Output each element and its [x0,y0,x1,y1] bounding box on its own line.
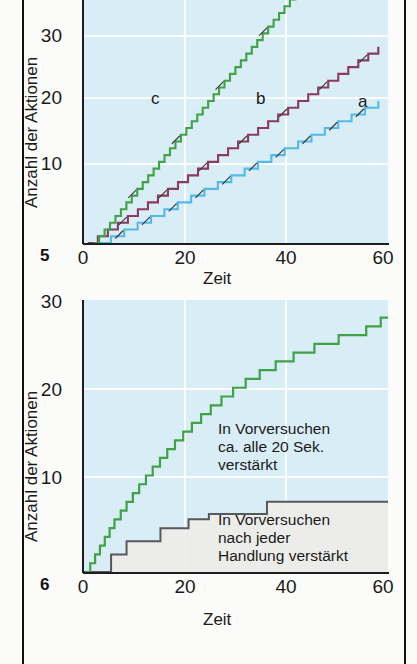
figure-6-ytick-30: 30 [22,292,62,311]
figure-6: 30 20 10 0 20 40 60 Zeit Anzahl der Akti… [0,280,417,664]
figure-5-xtick-20: 20 [165,248,205,267]
figure-5-curve-label-a: a [358,92,367,112]
figure-5-y-axis [82,0,84,244]
figure-6-xtick-40: 40 [266,577,306,596]
figure-6-y-axis [82,300,84,573]
figure-5-curve-label-c: c [151,89,160,109]
figure-5-xtick-40: 40 [266,248,306,267]
figure-5-curve-label-b: b [256,89,265,109]
figure-5-xtick-60: 60 [363,248,403,267]
figure-6-note-continuous: In Vorversuchen nach jeder Handlung vers… [218,511,348,565]
figure-5: 30 20 10 0 20 40 60 Zeit Anzahl der Akti… [0,0,417,280]
figure-5-ytick-30: 30 [22,26,62,45]
figure-6-xtick-20: 20 [165,577,205,596]
figure-6-xtick-0: 0 [63,577,103,596]
figure-6-number: 6 [40,575,49,595]
figure-6-y-axis-title: Anzahl der Aktionen [22,391,42,542]
figure-6-x-axis [83,572,389,574]
figure-6-x-axis-title: Zeit [203,610,231,630]
page-background: 30 20 10 0 20 40 60 Zeit Anzahl der Akti… [0,0,417,664]
figure-5-x-axis [83,243,389,245]
figure-6-curves [0,280,417,664]
figure-5-xtick-0: 0 [63,248,103,267]
figure-6-xtick-60: 60 [363,577,403,596]
figure-5-number: 5 [40,246,49,266]
figure-5-curves [0,0,417,280]
figure-5-y-axis-title: Anzahl der Aktionen [22,57,42,208]
figure-6-note-interval: In Vorversuchen ca. alle 20 Sek. verstär… [218,420,330,474]
